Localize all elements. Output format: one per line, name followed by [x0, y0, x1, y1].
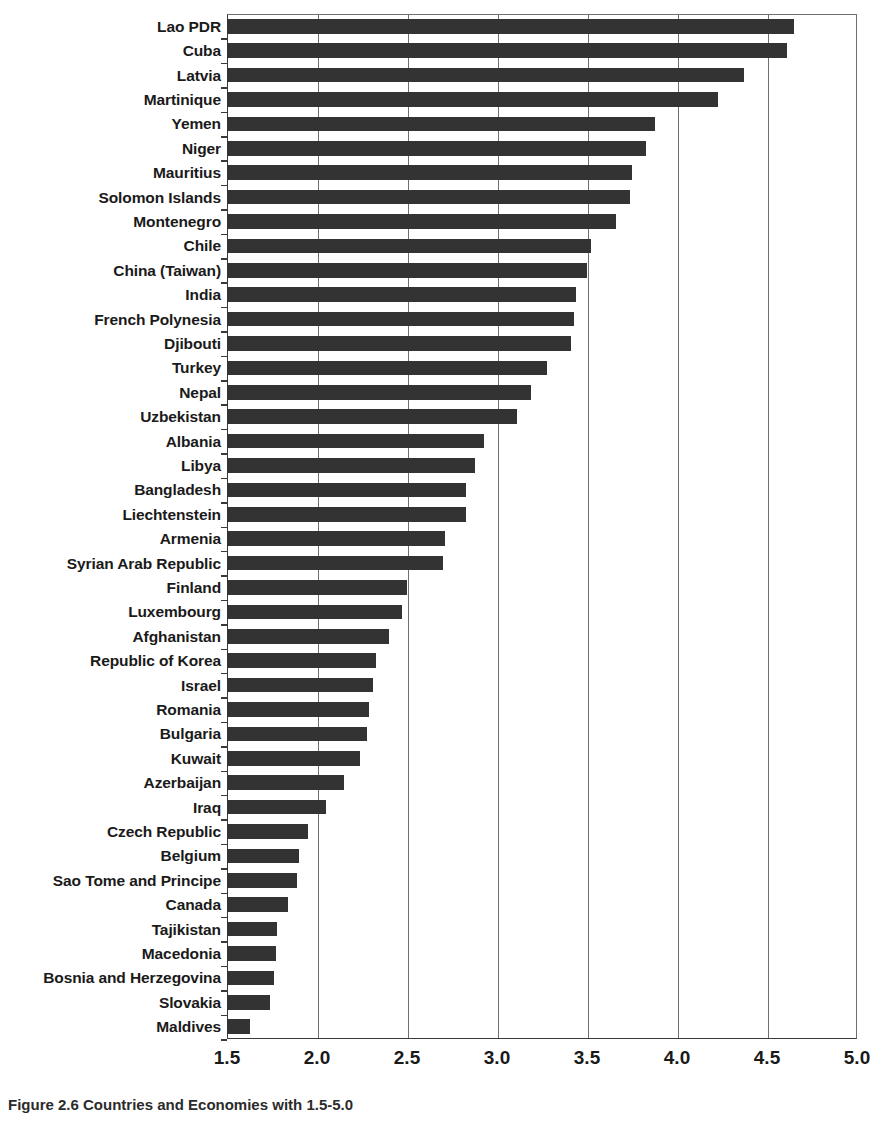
bar	[227, 239, 591, 254]
category-label: Israel	[181, 678, 221, 694]
bar	[227, 702, 369, 717]
bar	[227, 946, 276, 961]
bar	[227, 385, 531, 400]
x-tick-label: 3.0	[484, 1047, 510, 1069]
category-label: Montenegro	[133, 214, 221, 230]
category-label: Syrian Arab Republic	[67, 556, 221, 572]
bar	[227, 92, 718, 107]
bar	[227, 531, 445, 546]
x-tick-label: 4.5	[754, 1047, 780, 1069]
bar	[227, 336, 571, 351]
bar	[227, 263, 587, 278]
bar	[227, 873, 297, 888]
category-label: Belgium	[161, 848, 221, 864]
bar	[227, 727, 367, 742]
category-label: Solomon Islands	[98, 190, 221, 206]
category-label: French Polynesia	[94, 312, 221, 328]
category-label: Bangladesh	[134, 482, 221, 498]
x-tick-label: 5.0	[844, 1047, 870, 1069]
x-tick-label: 2.0	[304, 1047, 330, 1069]
value-axis-labels: 1.52.02.53.03.54.04.55.0	[0, 1047, 888, 1077]
x-tick-label: 4.0	[664, 1047, 690, 1069]
bar	[227, 1019, 250, 1034]
category-label: Tajikistan	[152, 922, 221, 938]
category-axis-labels: Lao PDRCubaLatviaMartiniqueYemenNigerMau…	[0, 14, 221, 1039]
bars-container	[227, 14, 857, 1039]
bar	[227, 483, 466, 498]
bar	[227, 165, 632, 180]
bar	[227, 507, 466, 522]
x-tick-label: 3.5	[574, 1047, 600, 1069]
category-label: Lao PDR	[157, 19, 221, 35]
category-label: Iraq	[193, 800, 221, 816]
category-label: Djibouti	[164, 336, 221, 352]
bar	[227, 653, 376, 668]
bar	[227, 849, 299, 864]
category-label: Czech Republic	[107, 824, 221, 840]
bar	[227, 897, 288, 912]
category-label: Sao Tome and Principe	[53, 873, 221, 889]
bar-chart-figure: Lao PDRCubaLatviaMartiniqueYemenNigerMau…	[0, 0, 888, 1129]
category-label: China (Taiwan)	[113, 263, 221, 279]
bar	[227, 971, 274, 986]
category-label: Cuba	[183, 43, 221, 59]
category-label: Republic of Korea	[90, 653, 221, 669]
x-tick-label: 2.5	[394, 1047, 420, 1069]
bar	[227, 605, 402, 620]
bar	[227, 190, 630, 205]
bar	[227, 678, 373, 693]
category-label: Azerbaijan	[144, 775, 221, 791]
category-label: Nepal	[179, 385, 221, 401]
bar	[227, 922, 277, 937]
bar	[227, 556, 443, 571]
bar	[227, 117, 655, 132]
category-label: Canada	[166, 897, 221, 913]
category-label: Romania	[156, 702, 221, 718]
axis-tick	[221, 1039, 227, 1041]
category-label: Macedonia	[142, 946, 221, 962]
category-label: India	[185, 287, 221, 303]
category-label: Bulgaria	[160, 726, 221, 742]
category-label: Slovakia	[159, 995, 221, 1011]
category-label: Uzbekistan	[140, 409, 221, 425]
category-label: Kuwait	[171, 751, 221, 767]
bar	[227, 19, 794, 34]
category-label: Albania	[166, 434, 221, 450]
category-label: Niger	[182, 141, 221, 157]
category-label: Martinique	[144, 92, 221, 108]
figure-caption: Figure 2.6 Countries and Economies with …	[8, 1096, 880, 1113]
category-label: Armenia	[160, 531, 221, 547]
bar	[227, 68, 744, 83]
category-label: Bosnia and Herzegovina	[43, 970, 221, 986]
category-label: Afghanistan	[133, 629, 221, 645]
x-tick-label: 1.5	[214, 1047, 240, 1069]
bar	[227, 458, 475, 473]
category-label: Latvia	[177, 68, 221, 84]
bar	[227, 800, 326, 815]
bar	[227, 361, 547, 376]
bar	[227, 824, 308, 839]
bar	[227, 141, 646, 156]
bar	[227, 214, 616, 229]
category-label: Chile	[184, 238, 221, 254]
bar	[227, 995, 270, 1010]
bar	[227, 287, 576, 302]
category-label: Turkey	[172, 360, 221, 376]
bar	[227, 629, 389, 644]
category-label: Yemen	[172, 116, 221, 132]
category-label: Mauritius	[153, 165, 221, 181]
bar	[227, 775, 344, 790]
category-label: Finland	[167, 580, 221, 596]
bar	[227, 434, 484, 449]
bar	[227, 409, 517, 424]
bar	[227, 312, 574, 327]
bar	[227, 751, 360, 766]
bar	[227, 43, 787, 58]
bar	[227, 580, 407, 595]
category-label: Liechtenstein	[122, 507, 221, 523]
category-label: Luxembourg	[128, 604, 221, 620]
category-label: Maldives	[156, 1019, 221, 1035]
category-label: Libya	[181, 458, 221, 474]
